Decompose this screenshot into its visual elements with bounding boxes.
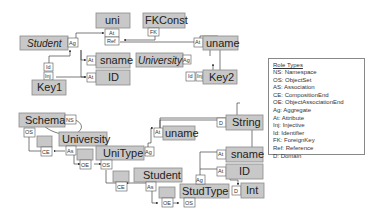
object-anonymous-3[interactable] bbox=[113, 171, 129, 182]
legend-item: FK: ForeignKey bbox=[273, 137, 360, 145]
role-oe-label: OE bbox=[163, 200, 171, 206]
role-ns-label: NS bbox=[66, 117, 74, 123]
object-sname-top-label: sname bbox=[100, 54, 133, 66]
role-at-label: At bbox=[88, 57, 94, 63]
object-uni-label: uni bbox=[105, 14, 120, 26]
role-ag-label: Ag bbox=[69, 40, 76, 46]
top-connectors bbox=[49, 25, 220, 77]
object-id-label: ID bbox=[239, 165, 250, 177]
role-os-label: OS bbox=[102, 162, 110, 168]
role-at-label: At bbox=[88, 74, 94, 80]
legend-item: Id: Identifier bbox=[273, 130, 360, 138]
role-inj-label: Inj bbox=[45, 73, 51, 79]
legend-item: OE: ObjectAssociationEnd bbox=[273, 99, 360, 107]
object-id-top-label: ID bbox=[108, 71, 119, 83]
role-ce-label: CE bbox=[117, 184, 125, 190]
legend-item: D: Domain bbox=[273, 153, 360, 161]
role-ref-label: Ref bbox=[107, 38, 116, 44]
object-int-label: Int bbox=[246, 184, 258, 196]
role-as-label: As bbox=[67, 148, 74, 154]
role-at-label: At bbox=[218, 168, 224, 174]
legend-item: NS: Namespace bbox=[273, 69, 360, 77]
role-fk-label: FK bbox=[150, 29, 157, 35]
object-fkconst-label: FKConst bbox=[145, 14, 188, 26]
legend-item: Inj: Injective bbox=[273, 122, 360, 130]
role-at-label: At bbox=[109, 30, 115, 36]
role-id-label: Id bbox=[46, 64, 51, 70]
role-d-label: D bbox=[234, 188, 238, 194]
role-os-label: OS bbox=[185, 200, 193, 206]
object-key2-label: Key2 bbox=[209, 71, 234, 83]
legend-item: Ref: Reference bbox=[273, 145, 360, 153]
object-sname-label: sname bbox=[231, 148, 264, 160]
object-anonymous-1[interactable] bbox=[37, 136, 52, 147]
role-at-label: At bbox=[218, 151, 224, 157]
object-schema-label: Schema bbox=[25, 114, 66, 126]
object-student-label: Student bbox=[143, 169, 181, 181]
role-d-label: D bbox=[219, 120, 223, 126]
object-studtype-label: StudType bbox=[182, 185, 228, 197]
legend-title: Role Types bbox=[273, 61, 360, 69]
role-ag-label: Ag bbox=[145, 149, 152, 155]
legend-item: At: Attribute bbox=[273, 115, 360, 123]
legend-item: AS: Association bbox=[273, 84, 360, 92]
legend-item: OS: ObjectSet bbox=[273, 77, 360, 85]
object-university-top-label: University bbox=[138, 55, 183, 66]
object-string-label: String bbox=[232, 116, 261, 128]
role-ag-label: Ag bbox=[183, 57, 190, 63]
object-uname-label: uname bbox=[165, 127, 199, 139]
role-os-label: OS bbox=[25, 129, 33, 135]
object-anonymous-4[interactable] bbox=[159, 187, 175, 198]
object-anonymous-2[interactable] bbox=[77, 149, 93, 160]
object-student-top-label: Student bbox=[27, 38, 63, 49]
object-university-label: University bbox=[62, 133, 111, 145]
object-uname-top-label: uname bbox=[206, 37, 240, 49]
role-at-label: At bbox=[195, 39, 201, 45]
object-key1-label: Key1 bbox=[37, 81, 62, 93]
legend-item: CE: CompositionEnd bbox=[273, 92, 360, 100]
role-types-legend: Role Types NS: Namespace OS: ObjectSet A… bbox=[268, 58, 365, 155]
role-at-label: At bbox=[155, 129, 161, 135]
object-unitype-label: UniType bbox=[103, 147, 143, 159]
role-inj-label: Inj bbox=[197, 73, 203, 79]
role-ce-label: CE bbox=[42, 149, 50, 155]
role-id-label: Id bbox=[188, 73, 193, 79]
role-oe-label: OE bbox=[81, 162, 89, 168]
legend-item: Ag: Aggregate bbox=[273, 107, 360, 115]
role-as-label: As bbox=[147, 184, 154, 190]
role-ag-label: Ag bbox=[196, 177, 203, 183]
